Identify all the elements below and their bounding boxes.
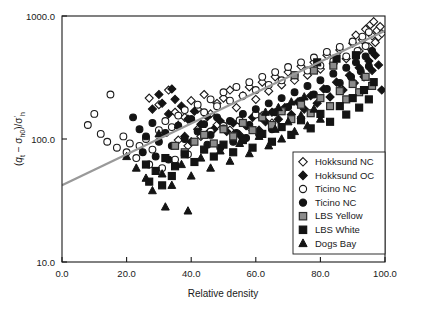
legend-label: Ticino NC bbox=[315, 197, 356, 208]
data-point bbox=[353, 59, 360, 66]
data-point bbox=[207, 131, 214, 138]
data-point bbox=[220, 126, 227, 133]
data-point bbox=[362, 43, 369, 50]
data-point bbox=[139, 149, 146, 156]
data-point bbox=[194, 101, 201, 108]
data-point bbox=[181, 151, 188, 158]
data-point bbox=[272, 69, 279, 76]
data-point bbox=[369, 48, 376, 55]
x-tick-label: 0.0 bbox=[55, 268, 68, 279]
data-point bbox=[201, 131, 208, 138]
data-point bbox=[239, 120, 246, 127]
legend-label: Dogs Bay bbox=[315, 238, 356, 249]
data-point bbox=[133, 155, 140, 162]
data-point bbox=[107, 91, 114, 98]
data-point bbox=[336, 80, 343, 87]
x-tick-label: 100.0 bbox=[373, 268, 397, 279]
data-point bbox=[220, 89, 227, 96]
data-point bbox=[278, 95, 285, 102]
data-point bbox=[162, 155, 169, 162]
data-point bbox=[343, 111, 350, 118]
data-point bbox=[361, 87, 368, 94]
data-point bbox=[149, 120, 156, 127]
data-point bbox=[311, 91, 318, 98]
data-point bbox=[285, 64, 292, 71]
data-point bbox=[152, 167, 159, 174]
y-tick-label: 1000.0 bbox=[26, 11, 55, 22]
data-point bbox=[310, 67, 317, 74]
data-point bbox=[336, 88, 343, 95]
data-point bbox=[130, 114, 137, 121]
data-point bbox=[330, 70, 337, 77]
ylabel-minus: − bbox=[13, 144, 24, 155]
data-point bbox=[168, 124, 175, 131]
data-point bbox=[249, 127, 256, 134]
data-point bbox=[336, 103, 343, 110]
data-point bbox=[336, 44, 343, 51]
legend-marker-gray-square bbox=[299, 213, 306, 220]
legend-label: LBS Yellow bbox=[315, 210, 363, 221]
data-point bbox=[210, 140, 217, 147]
data-point bbox=[181, 136, 188, 143]
data-point bbox=[365, 96, 372, 103]
data-point bbox=[230, 149, 237, 156]
data-point bbox=[168, 173, 175, 180]
data-point bbox=[362, 53, 369, 60]
data-point bbox=[298, 101, 305, 108]
x-tick-label: 40.0 bbox=[182, 268, 201, 279]
data-point bbox=[291, 89, 298, 96]
data-point bbox=[214, 103, 221, 110]
legend-label: Ticino NC bbox=[315, 183, 356, 194]
data-point bbox=[175, 112, 182, 119]
data-point bbox=[194, 128, 201, 135]
legend-marker-filled-circle bbox=[299, 199, 306, 206]
svg-text:(qt − σh0)/σ'h: (qt − σh0)/σ'h bbox=[12, 112, 26, 166]
data-point bbox=[143, 133, 150, 140]
data-point bbox=[162, 118, 169, 125]
legend-marker-black-square bbox=[299, 226, 306, 233]
data-point bbox=[172, 142, 179, 149]
data-point bbox=[323, 86, 330, 93]
data-point bbox=[348, 73, 355, 80]
y-tick-label: 100.0 bbox=[31, 134, 55, 145]
data-point bbox=[233, 84, 240, 91]
data-point bbox=[352, 52, 359, 59]
data-point bbox=[152, 153, 159, 160]
data-point bbox=[172, 156, 179, 163]
data-point bbox=[230, 133, 237, 140]
legend-label: Hokksund OC bbox=[315, 170, 374, 181]
x-tick-label: 60.0 bbox=[247, 268, 266, 279]
legend: Hokksund NCHokksund OCTicino NCTicino NC… bbox=[293, 152, 385, 254]
data-point bbox=[323, 49, 330, 56]
ylabel-sigma2-sub: h bbox=[19, 112, 26, 116]
data-point bbox=[252, 106, 259, 113]
data-point bbox=[298, 59, 305, 66]
data-point bbox=[191, 159, 198, 166]
data-point bbox=[220, 141, 227, 148]
data-point bbox=[114, 144, 121, 151]
data-point bbox=[214, 114, 221, 121]
data-point bbox=[181, 107, 188, 114]
data-point bbox=[349, 95, 356, 102]
data-point bbox=[365, 29, 372, 36]
x-axis-title: Relative density bbox=[188, 288, 259, 299]
data-point bbox=[91, 110, 98, 117]
data-point bbox=[359, 33, 366, 40]
scatter-chart-figure: 0.020.040.060.080.0100.0 10.0100.01000.0… bbox=[0, 0, 423, 318]
data-point bbox=[191, 138, 198, 145]
data-point bbox=[149, 146, 156, 153]
data-point bbox=[349, 81, 356, 88]
data-point bbox=[201, 146, 208, 153]
data-point bbox=[343, 64, 350, 71]
data-point bbox=[120, 133, 127, 140]
data-point bbox=[84, 122, 91, 129]
data-point bbox=[201, 121, 208, 128]
data-point bbox=[327, 118, 334, 125]
y-tick-label: 10.0 bbox=[37, 257, 56, 268]
data-point bbox=[317, 77, 324, 84]
data-point bbox=[265, 100, 272, 107]
ylabel-sigma1-sub: h0 bbox=[19, 130, 26, 138]
data-point bbox=[159, 182, 166, 189]
data-point bbox=[327, 103, 334, 110]
plot-svg: 0.020.040.060.080.0100.0 10.0100.01000.0… bbox=[0, 0, 423, 318]
